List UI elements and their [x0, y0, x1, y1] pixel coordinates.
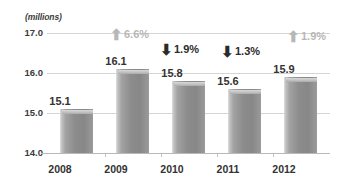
delta-annotation-text: 1.9%	[301, 31, 326, 42]
delta-annotation-2009: ⬆ 6.6%	[110, 27, 149, 42]
arrow-up-icon: ⬆	[287, 29, 300, 44]
delta-annotation-2010: ⬇ 1.9%	[160, 42, 199, 57]
bar-2008[interactable]	[60, 109, 93, 153]
y-axis-tick-label: 14.0	[3, 147, 43, 158]
x-axis-tickmark	[161, 153, 162, 157]
bar-value-label-2008: 15.1	[37, 95, 83, 107]
arrow-up-icon: ⬆	[110, 27, 123, 42]
arrow-down-icon: ⬇	[221, 44, 234, 59]
bar-2010[interactable]	[172, 81, 205, 153]
y-axis-tick-label: 16.0	[3, 67, 43, 78]
bar-highlight	[230, 90, 261, 94]
bar-highlight	[174, 82, 205, 86]
bar-2009[interactable]	[116, 69, 149, 153]
delta-annotation-text: 1.9%	[174, 44, 199, 55]
delta-annotation-2012: ⬆ 1.9%	[287, 29, 326, 44]
delta-annotation-text: 6.6%	[124, 29, 149, 40]
bar-highlight	[62, 110, 93, 114]
x-axis-tickmark	[105, 153, 106, 157]
arrow-down-icon: ⬇	[160, 42, 173, 57]
bar-value-label-2011: 15.6	[205, 75, 251, 87]
bar-value-label-2009: 16.1	[93, 55, 139, 67]
bar-highlight	[286, 78, 317, 82]
bar-2012[interactable]	[284, 77, 317, 153]
bar-highlight	[118, 70, 149, 74]
delta-annotation-2011: ⬇ 1.3%	[221, 44, 260, 59]
x-axis-tickmark	[273, 153, 274, 157]
x-axis-label-2010: 2010	[146, 163, 198, 175]
y-axis-tick-label: 15.0	[3, 107, 43, 118]
y-axis-tick-label: 17.0	[3, 27, 43, 38]
x-axis-label-2009: 2009	[90, 163, 142, 175]
delta-annotation-text: 1.3%	[235, 46, 260, 57]
x-axis-tickmark	[217, 153, 218, 157]
x-axis-label-2011: 2011	[202, 163, 254, 175]
bar-2011[interactable]	[228, 89, 261, 153]
bar-chart: (millions) 17.0 16.0 15.0 14.0 15.1	[0, 0, 343, 190]
x-axis-label-2008: 2008	[34, 163, 86, 175]
x-axis-line	[41, 153, 330, 154]
bar-value-label-2010: 15.8	[149, 67, 195, 79]
bar-value-label-2012: 15.9	[261, 63, 307, 75]
x-axis-label-2012: 2012	[258, 163, 310, 175]
